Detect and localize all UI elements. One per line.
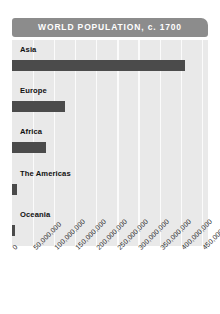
bar-group: Europe <box>12 81 208 122</box>
bar-category-label: Africa <box>20 128 42 136</box>
plot-area: AsiaEuropeAfricaThe AmericasOceania <box>12 40 208 246</box>
bar-category-label: The Americas <box>20 170 71 178</box>
bar-category-label: Asia <box>20 46 36 54</box>
chart-title-banner: WORLD POPULATION, c. 1700 <box>12 18 208 37</box>
bar-group: Asia <box>12 40 208 81</box>
bar <box>12 60 185 71</box>
bar-category-label: Oceania <box>20 211 50 219</box>
bar <box>12 101 65 112</box>
bar <box>12 142 46 153</box>
x-axis-tick-labels: 050,000,000100,000,000150,000,000200,000… <box>12 246 208 314</box>
bar-group: Africa <box>12 122 208 163</box>
bar-group: The Americas <box>12 164 208 205</box>
bar <box>12 184 17 195</box>
bar <box>12 225 15 236</box>
chart-title: WORLD POPULATION, c. 1700 <box>38 23 182 32</box>
bar-category-label: Europe <box>20 87 47 95</box>
chart-figure: WORLD POPULATION, c. 1700 AsiaEuropeAfri… <box>0 0 220 314</box>
